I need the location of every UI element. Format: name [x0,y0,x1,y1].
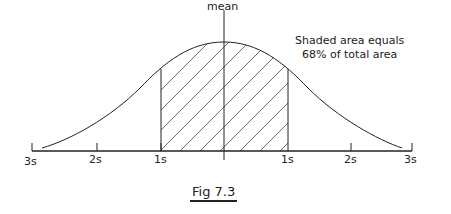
annotation-line-1: Shaded area equals [295,34,404,48]
normal-curve-diagram [0,0,451,214]
figure-caption: Fig 7.3 [190,184,237,202]
tick-label-minus-1s: 1s [154,153,167,166]
annotation-line-2: 68% of total area [295,48,404,62]
tick-label-minus-3s: 3s [24,155,37,168]
axis-ticks [32,143,412,151]
annotation: Shaded area equals 68% of total area [295,34,404,62]
tick-label-plus-1s: 1s [281,153,294,166]
tick-label-plus-2s: 2s [344,153,357,166]
tick-label-minus-2s: 2s [89,153,102,166]
tick-label-plus-3s: 3s [404,153,417,166]
mean-label: mean [207,0,238,13]
